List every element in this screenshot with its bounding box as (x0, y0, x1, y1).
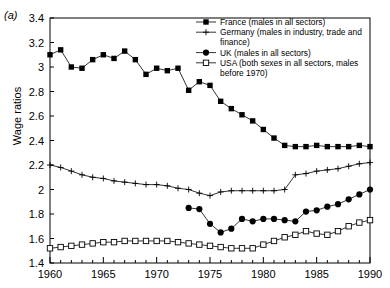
data-point (346, 196, 352, 202)
data-point (325, 144, 330, 149)
data-point (314, 231, 319, 236)
figure-panel: (a) Wage ratios 1.41.61.822.22.42.62.833… (0, 0, 390, 288)
y-tick-label: 2.8 (29, 86, 44, 98)
data-point (101, 239, 106, 244)
legend-label: finance) (220, 37, 250, 47)
data-point (197, 79, 202, 84)
data-point (154, 238, 159, 243)
data-point (165, 68, 170, 73)
wage-ratios-chart: 1.41.61.822.22.42.62.833.23.419601965197… (0, 0, 390, 288)
x-tick-label: 1985 (304, 268, 328, 280)
data-point (165, 238, 170, 243)
data-point (335, 144, 340, 149)
data-point (143, 238, 148, 243)
data-point (122, 48, 127, 53)
data-point (79, 66, 84, 71)
series-line (189, 190, 370, 233)
data-point (218, 99, 223, 104)
data-point (111, 56, 116, 61)
y-tick-label: 3 (38, 61, 44, 73)
data-point (367, 186, 373, 192)
data-point (207, 221, 213, 227)
data-point (47, 52, 52, 57)
legend-label: UK (males in all sectors) (220, 48, 311, 58)
data-point (197, 242, 202, 247)
data-point (335, 201, 341, 207)
data-point (314, 143, 319, 148)
x-tick-label: 1980 (251, 268, 275, 280)
data-point (175, 239, 180, 244)
data-point (367, 217, 372, 222)
data-point (186, 241, 191, 246)
data-point (239, 246, 244, 251)
data-point (111, 239, 116, 244)
data-point (69, 243, 74, 248)
legend-marker (203, 60, 208, 65)
data-point (324, 204, 330, 210)
data-point (282, 217, 288, 223)
legend-label: Germany (males in industry, trade and (220, 27, 362, 37)
data-point (261, 127, 266, 132)
x-tick-label: 1990 (358, 268, 382, 280)
data-point (335, 228, 340, 233)
data-point (218, 244, 223, 249)
data-point (69, 64, 74, 69)
data-point (250, 246, 255, 251)
data-point (293, 144, 298, 149)
data-point (357, 220, 362, 225)
data-point (250, 118, 255, 123)
data-point (271, 135, 276, 140)
data-point (47, 246, 52, 251)
data-point (143, 72, 148, 77)
data-point (186, 88, 191, 93)
data-point (133, 57, 138, 62)
data-point (154, 66, 159, 71)
data-point (101, 52, 106, 57)
data-point (250, 218, 256, 224)
data-point (282, 235, 287, 240)
x-tick-label: 1965 (91, 268, 115, 280)
y-tick-label: 2.6 (29, 110, 44, 122)
data-point (229, 106, 234, 111)
data-point (303, 144, 308, 149)
data-point (271, 216, 277, 222)
data-point (314, 207, 320, 213)
data-point (325, 232, 330, 237)
legend-label: France (males in all sectors) (220, 17, 325, 27)
x-tick-label: 1960 (38, 268, 62, 280)
data-point (196, 206, 202, 212)
data-point (271, 238, 276, 243)
data-point (346, 144, 351, 149)
data-point (261, 242, 266, 247)
data-point (228, 226, 234, 232)
data-point (133, 238, 138, 243)
data-point (303, 228, 308, 233)
y-tick-label: 3.4 (29, 12, 44, 24)
y-tick-label: 2.2 (29, 159, 44, 171)
legend-label: USA (both sexes in all sectors, males (220, 58, 358, 68)
data-point (367, 144, 372, 149)
data-point (229, 246, 234, 251)
data-point (357, 143, 362, 148)
data-point (303, 208, 309, 214)
data-point (90, 57, 95, 62)
data-point (207, 243, 212, 248)
y-tick-label: 2 (38, 184, 44, 196)
data-point (346, 224, 351, 229)
legend-marker (203, 50, 209, 56)
series-line (50, 163, 370, 196)
data-point (292, 218, 298, 224)
x-tick-label: 1975 (198, 268, 222, 280)
data-point (282, 143, 287, 148)
data-point (239, 112, 244, 117)
y-tick-label: 2.4 (29, 135, 44, 147)
data-point (239, 216, 245, 222)
data-point (90, 241, 95, 246)
data-point (356, 191, 362, 197)
data-point (207, 83, 212, 88)
legend-marker (203, 19, 208, 24)
x-tick-label: 1970 (144, 268, 168, 280)
y-tick-label: 1.6 (29, 233, 44, 245)
data-point (186, 205, 192, 211)
data-point (58, 244, 63, 249)
